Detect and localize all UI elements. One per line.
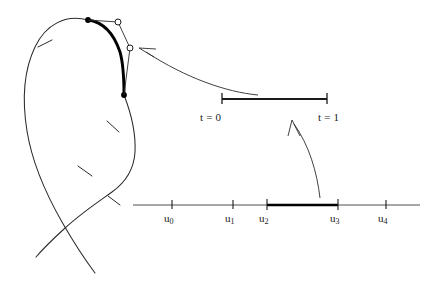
knot-label-u0-sub: 0 <box>170 217 174 226</box>
spline-curve-thin <box>24 18 135 273</box>
knot-label-u3: u3 <box>330 213 340 226</box>
knot-label-u1: u1 <box>225 213 235 226</box>
control-leg-3 <box>124 48 130 95</box>
control-point-1 <box>115 19 121 25</box>
spline-diagram-svg <box>0 0 436 281</box>
control-point-2 <box>127 45 133 51</box>
parameter-bar <box>222 93 327 104</box>
knot-label-u0: u0 <box>164 213 174 226</box>
knot-label-u2: u2 <box>259 213 269 226</box>
knot-label-u4: u4 <box>378 213 388 226</box>
parameter-end-label: t = 1 <box>318 112 339 123</box>
knot-label-u1-sub: 1 <box>231 217 235 226</box>
control-leg-2 <box>118 22 130 48</box>
curve-tick-1 <box>38 40 52 47</box>
spline-highlighted-segment <box>88 20 124 95</box>
curve-tick-3 <box>107 121 119 132</box>
knot-label-u3-sub: 3 <box>336 217 340 226</box>
leader-arrow-to-curve <box>139 48 258 95</box>
spline-left-arc <box>24 18 95 273</box>
spline-right-arc <box>36 95 135 257</box>
knot-label-u2-sub: 2 <box>265 217 269 226</box>
figure-canvas: t = 0 t = 1 u0 u1 u2 u3 u4 <box>0 0 436 281</box>
curve-tick-4 <box>108 196 120 205</box>
leader-arrow-to-bar <box>288 120 320 198</box>
knot-axis <box>133 199 420 210</box>
parameter-start-label: t = 0 <box>200 112 221 123</box>
knot-label-u4-sub: 4 <box>384 217 388 226</box>
curve-tick-2 <box>78 166 92 176</box>
leader-arrow-to-bar-head <box>288 120 300 136</box>
leader-arrow-to-bar-path <box>294 124 320 198</box>
curve-knot-ticks <box>38 40 120 205</box>
leader-arrow-to-curve-path <box>146 52 258 95</box>
